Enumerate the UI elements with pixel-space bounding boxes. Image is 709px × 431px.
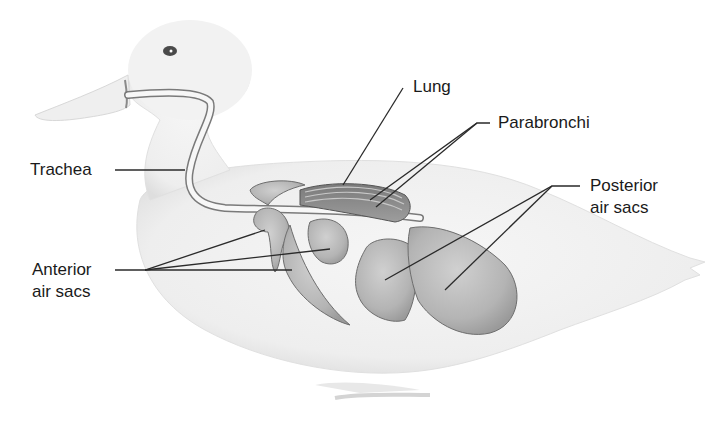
label-anterior-line1: Anterior <box>32 259 92 281</box>
label-anterior-line2: air sacs <box>32 281 92 303</box>
bird-respiratory-diagram: Trachea Lung Parabronchi Posterior air s… <box>0 0 709 431</box>
label-posterior-line1: Posterior <box>590 175 658 197</box>
label-parabronchi-text: Parabronchi <box>498 112 590 134</box>
label-trachea: Trachea <box>30 159 92 181</box>
label-posterior-line2: air sacs <box>590 197 658 219</box>
label-posterior-air-sacs: Posterior air sacs <box>590 175 658 219</box>
label-lung-text: Lung <box>413 76 451 98</box>
label-parabronchi: Parabronchi <box>498 112 590 134</box>
beak <box>35 75 130 121</box>
label-lung: Lung <box>413 76 451 98</box>
label-trachea-text: Trachea <box>30 159 92 181</box>
label-anterior-air-sacs: Anterior air sacs <box>32 259 92 303</box>
